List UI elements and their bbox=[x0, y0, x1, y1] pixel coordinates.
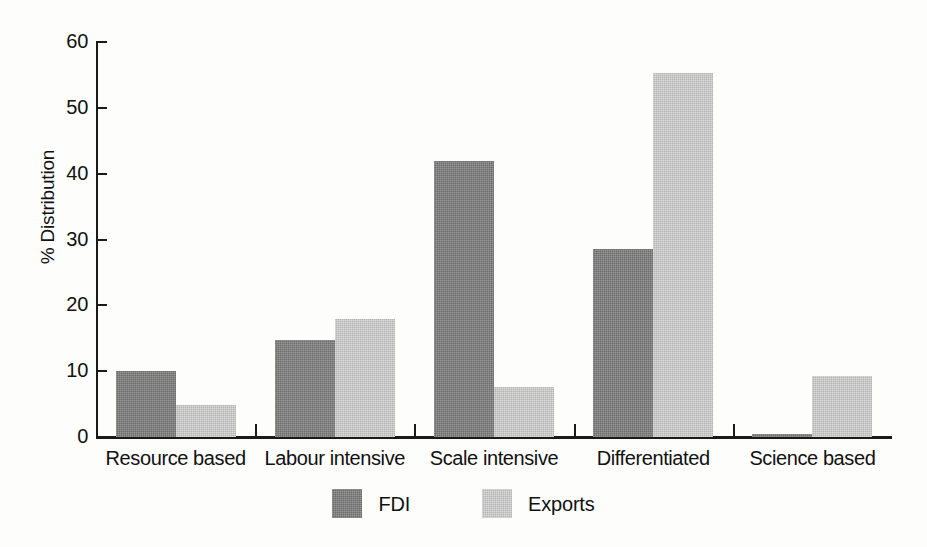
y-axis-tick-label-text: 30 bbox=[46, 229, 88, 249]
bar-exports-scale-intensive bbox=[494, 387, 554, 437]
bar-exports-differentiated bbox=[653, 73, 713, 437]
bar-fdi-labour-intensive bbox=[275, 340, 335, 437]
chart-figure: % Distribution 0102030405060 Resource ba… bbox=[0, 0, 927, 547]
bar-exports-labour-intensive bbox=[335, 319, 395, 438]
y-axis-tick-label-text: 50 bbox=[46, 97, 88, 117]
chart-legend: FDIExports bbox=[0, 489, 927, 518]
y-axis-tick-label: 20 bbox=[36, 294, 88, 314]
legend-item-fdi: FDI bbox=[332, 489, 410, 518]
x-axis-label-differentiated: Differentiated bbox=[574, 446, 733, 470]
y-axis-tick-label-text: 10 bbox=[46, 360, 88, 380]
bar-exports-science-based bbox=[812, 376, 872, 437]
y-axis-tick-label: 40 bbox=[36, 163, 88, 183]
x-axis-label-science-based: Science based bbox=[733, 446, 892, 470]
legend-label-exports: Exports bbox=[528, 494, 594, 514]
x-axis-label-resource-based: Resource based bbox=[96, 446, 255, 470]
bar-fdi-science-based bbox=[752, 434, 812, 437]
y-axis-tick-label-text: 40 bbox=[46, 163, 88, 183]
bar-fdi-resource-based bbox=[116, 371, 176, 437]
legend-item-exports: Exports bbox=[482, 489, 594, 518]
bar-fdi-scale-intensive bbox=[434, 161, 494, 438]
y-axis-tick-label: 60 bbox=[36, 31, 88, 51]
y-axis-tick-label-text: 0 bbox=[46, 426, 88, 446]
y-axis-tick-label: 0 bbox=[36, 426, 88, 446]
x-axis-label-scale-intensive: Scale intensive bbox=[414, 446, 573, 470]
bar-fdi-differentiated bbox=[593, 249, 653, 437]
exports-swatch bbox=[482, 489, 512, 518]
fdi-swatch bbox=[332, 489, 362, 518]
bar-exports-resource-based bbox=[176, 405, 236, 437]
y-axis-tick-label-text: 20 bbox=[46, 294, 88, 314]
x-axis-label-labour-intensive: Labour intensive bbox=[255, 446, 414, 470]
y-axis-title: % Distribution bbox=[37, 97, 59, 317]
y-axis-tick-label: 10 bbox=[36, 360, 88, 380]
plot-area bbox=[96, 42, 892, 437]
y-axis-tick-label: 50 bbox=[36, 97, 88, 117]
y-axis-tick-label-text: 60 bbox=[46, 31, 88, 51]
legend-label-fdi: FDI bbox=[378, 494, 410, 514]
y-axis-tick-label: 30 bbox=[36, 229, 88, 249]
